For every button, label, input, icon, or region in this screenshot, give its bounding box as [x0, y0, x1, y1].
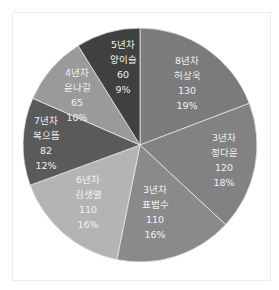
label-percent: 19% — [176, 100, 197, 111]
label-percent: 10% — [66, 112, 87, 123]
label-value: 110 — [146, 214, 164, 225]
label-percent: 12% — [35, 160, 56, 171]
label-percent: 16% — [77, 219, 98, 230]
label-tenure: 6년차 — [76, 174, 100, 185]
label-tenure: 5년차 — [111, 39, 135, 50]
label-value: 82 — [40, 145, 52, 156]
label-tenure: 3년차 — [212, 132, 236, 143]
label-name: 정다운 — [211, 147, 238, 158]
label-tenure: 4년차 — [65, 67, 89, 78]
label-percent: 18% — [213, 177, 234, 188]
label-name: 표범수 — [142, 199, 169, 210]
label-name: 윤나길 — [64, 82, 91, 93]
label-percent: 16% — [144, 229, 165, 240]
label-value: 120 — [215, 162, 233, 173]
pie-slices — [23, 28, 257, 262]
label-name: 양이슬 — [110, 54, 137, 65]
pie-chart: 8년차 허상욱 130 19% 3년차 정다운 120 18% 3년차 표범수 … — [0, 0, 279, 290]
label-value: 130 — [178, 85, 196, 96]
label-name: 복으뜸 — [33, 130, 60, 141]
label-percent: 9% — [115, 84, 130, 95]
label-value: 110 — [79, 204, 97, 215]
label-value: 60 — [117, 69, 129, 80]
label-tenure: 3년차 — [143, 184, 167, 195]
label-name: 허상욱 — [174, 70, 201, 81]
label-tenure: 8년차 — [175, 55, 199, 66]
label-value: 65 — [71, 97, 83, 108]
label-name: 김샛별 — [75, 189, 102, 200]
label-tenure: 7년차 — [34, 115, 58, 126]
